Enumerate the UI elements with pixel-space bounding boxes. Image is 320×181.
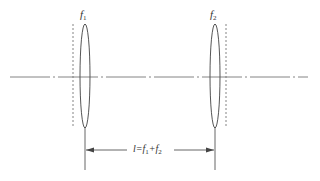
arrow-left-icon	[86, 148, 94, 153]
arrow-right-icon	[206, 148, 214, 153]
dimension-label-text: l=f	[133, 143, 145, 154]
dimension-label-plus: +f	[149, 143, 159, 154]
lens-1-label-sub: 1	[83, 14, 87, 22]
lens-2-label-sub: 2	[213, 14, 217, 22]
lens-1	[80, 24, 90, 128]
lens-1-label: f1	[80, 9, 87, 22]
dimension-label-sub2: 2	[158, 148, 162, 156]
dimension-label: l=f1+f2	[133, 144, 162, 156]
lens-2	[210, 24, 220, 128]
lens-2-label: f2	[210, 9, 217, 22]
